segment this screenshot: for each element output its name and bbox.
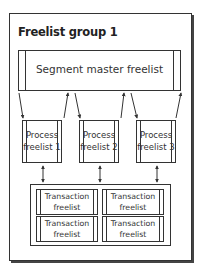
arrow-proc2-to-seg-right [121,93,124,118]
arrow-seg-to-proc1-left [19,93,23,118]
arrow-seg-to-proc3-left [131,93,137,118]
connector-arrows [0,0,200,269]
arrow-proc1-to-seg-right [64,93,68,118]
arrow-seg-to-proc2-left [75,93,80,118]
arrow-proc3-to-seg-right [176,93,181,118]
